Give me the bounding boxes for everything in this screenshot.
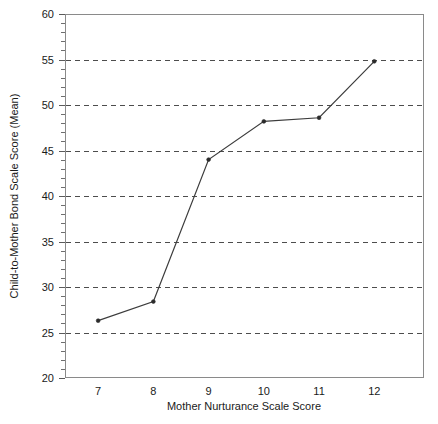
data-point-11	[317, 116, 321, 120]
y-axis-tick-labels: 202530354045505560	[42, 8, 54, 384]
plot-border	[66, 15, 424, 378]
y-axis-ticks	[59, 15, 65, 379]
x-tick-label-8: 8	[150, 385, 156, 397]
line-chart: 202530354045505560 789101112 Mother Nurt…	[0, 0, 438, 424]
series-markers	[96, 59, 376, 322]
y-tick-label-35: 35	[42, 236, 54, 248]
plot-frame	[66, 15, 424, 378]
y-tick-label-20: 20	[42, 372, 54, 384]
y-gridlines	[66, 61, 423, 334]
y-tick-label-60: 60	[42, 8, 54, 20]
x-tick-label-7: 7	[95, 385, 101, 397]
x-tick-label-9: 9	[206, 385, 212, 397]
y-tick-label-55: 55	[42, 54, 54, 66]
data-series-group	[96, 59, 376, 322]
y-tick-label-25: 25	[42, 327, 54, 339]
y-tick-label-50: 50	[42, 99, 54, 111]
data-point-9	[207, 158, 211, 162]
y-tick-label-30: 30	[42, 281, 54, 293]
x-tick-label-10: 10	[258, 385, 270, 397]
data-point-10	[262, 119, 266, 123]
y-tick-label-45: 45	[42, 145, 54, 157]
y-axis-title: Child-to-Mother Bond Scale Score (Mean)	[8, 94, 20, 299]
data-point-12	[372, 59, 376, 63]
data-point-7	[96, 319, 100, 323]
chart-figure: 202530354045505560 789101112 Mother Nurt…	[0, 0, 438, 424]
x-axis-tick-labels: 789101112	[95, 385, 380, 397]
series-line-child-to-mother-bond	[98, 61, 374, 320]
x-axis-title: Mother Nurturance Scale Score	[167, 400, 321, 412]
data-point-8	[151, 300, 155, 304]
y-tick-label-40: 40	[42, 190, 54, 202]
x-tick-label-12: 12	[368, 385, 380, 397]
x-tick-label-11: 11	[313, 385, 324, 397]
